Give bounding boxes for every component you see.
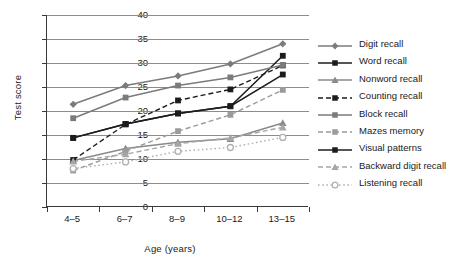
legend-label: Backward digit recall	[353, 160, 446, 171]
legend-key-icon	[317, 90, 353, 102]
data-point-marker	[123, 159, 129, 165]
y-axis-title: Test score	[12, 53, 23, 143]
data-point-marker	[175, 111, 181, 117]
legend-label: Digit recall	[353, 38, 403, 49]
data-point-marker	[122, 82, 129, 89]
data-point-marker	[280, 72, 286, 78]
legend-key-icon	[317, 124, 353, 136]
x-axis-title: Age (years)	[30, 243, 310, 254]
data-point-marker	[332, 112, 338, 118]
x-axis-tick	[257, 207, 258, 212]
legend-item[interactable]: Listening recall	[317, 175, 446, 190]
legend-key-icon	[317, 55, 353, 67]
legend-item[interactable]: Visual patterns	[317, 140, 446, 155]
legend-label: Nonword recall	[353, 73, 422, 84]
legend-item[interactable]: Word recall	[317, 53, 446, 68]
legend-item[interactable]: Mazes memory	[317, 123, 446, 138]
data-point-marker	[280, 134, 286, 140]
data-point-marker	[175, 98, 181, 104]
legend-label: Listening recall	[353, 177, 422, 188]
data-point-marker	[332, 182, 338, 188]
data-point-marker	[332, 42, 339, 49]
x-axis-tick-label: 8–9	[147, 213, 207, 224]
data-point-marker	[70, 115, 76, 121]
x-axis-tick	[47, 207, 48, 212]
data-point-marker	[175, 128, 181, 134]
x-axis-tick	[152, 207, 153, 212]
series-lines	[47, 15, 309, 207]
legend-label: Block recall	[353, 108, 408, 119]
data-point-marker	[280, 53, 286, 59]
data-point-marker	[332, 147, 338, 153]
plot-area	[46, 15, 308, 207]
legend-key-icon	[317, 107, 353, 119]
data-point-marker	[123, 95, 129, 101]
x-axis-tick-label: 10–12	[199, 213, 259, 224]
data-point-marker	[175, 83, 181, 89]
x-axis-tick-label: 6–7	[95, 213, 155, 224]
data-point-marker	[227, 144, 233, 150]
x-axis-tick	[204, 207, 205, 212]
data-point-marker	[123, 121, 129, 127]
legend-key-icon	[317, 72, 353, 84]
x-axis-tick	[309, 207, 310, 212]
data-point-marker	[228, 112, 234, 118]
data-point-marker	[332, 60, 338, 66]
data-point-marker	[174, 72, 181, 79]
legend-label: Mazes memory	[353, 125, 424, 136]
legend-key-icon	[317, 177, 353, 189]
data-point-marker	[70, 101, 77, 108]
data-point-marker	[228, 87, 234, 93]
data-point-marker	[332, 130, 338, 136]
legend-label: Visual patterns	[353, 142, 422, 153]
legend-item[interactable]: Block recall	[317, 106, 446, 121]
data-point-marker	[228, 75, 234, 81]
legend-item[interactable]: Digit recall	[317, 36, 446, 51]
x-axis-tick	[99, 207, 100, 212]
legend-item[interactable]: Counting recall	[317, 88, 446, 103]
x-axis-tick-label: 13–15	[252, 213, 312, 224]
legend-label: Word recall	[353, 55, 407, 66]
data-point-marker	[227, 60, 234, 67]
legend-key-icon	[317, 159, 353, 171]
data-point-marker	[175, 148, 181, 154]
data-point-marker	[280, 87, 286, 93]
series-line	[73, 56, 283, 138]
legend-item[interactable]: Backward digit recall	[317, 158, 446, 173]
data-point-marker	[228, 103, 234, 109]
x-axis-tick-label: 4–5	[42, 213, 102, 224]
chart-legend: Digit recallWord recallNonword recallCou…	[317, 36, 446, 190]
legend-key-icon	[317, 38, 353, 50]
legend-key-icon	[317, 142, 353, 154]
data-point-marker	[280, 62, 286, 68]
data-point-marker	[332, 95, 338, 101]
data-point-marker	[70, 166, 76, 172]
legend-label: Counting recall	[353, 90, 422, 101]
data-point-marker	[279, 40, 286, 47]
data-point-marker	[70, 135, 76, 141]
series-word-recall	[70, 53, 285, 141]
chart-figure: Test score Age (years) 0510152025303540 …	[0, 0, 461, 267]
legend-item[interactable]: Nonword recall	[317, 71, 446, 86]
